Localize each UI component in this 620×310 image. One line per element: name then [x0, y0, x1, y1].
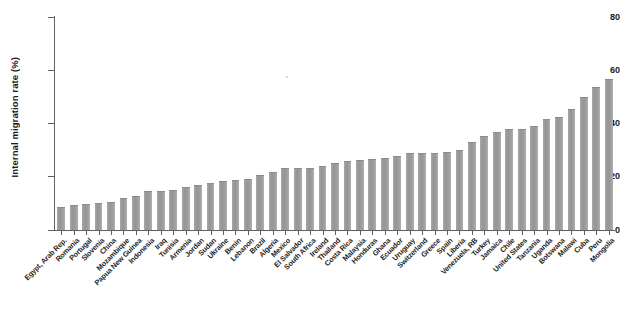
x-axis-tick [422, 231, 423, 235]
bar [530, 126, 538, 230]
x-axis-tick [310, 231, 311, 235]
bar [381, 158, 389, 230]
bar [518, 129, 526, 230]
bar [132, 196, 140, 230]
x-axis-tick [99, 231, 100, 235]
x-axis-tick [186, 231, 187, 235]
bar [493, 132, 501, 230]
bar [319, 166, 327, 230]
x-axis-tick [596, 231, 597, 235]
bar [294, 168, 302, 230]
bar [95, 203, 103, 230]
y-axis-title-label: Internal migration rate (%) [9, 57, 20, 177]
y-axis-title: Internal migration rate (%) [2, 0, 26, 235]
y-axis-tick [48, 17, 54, 18]
x-axis-tick [273, 231, 274, 235]
x-axis-tick [173, 231, 174, 235]
bar [269, 172, 277, 230]
x-axis-tick [472, 231, 473, 235]
bar [456, 150, 464, 230]
bar [157, 191, 165, 230]
x-axis-tick [198, 231, 199, 235]
y-axis-tick [48, 123, 54, 124]
bar [331, 163, 339, 230]
x-axis-tick [123, 231, 124, 235]
x-axis-tick [61, 231, 62, 235]
bar [431, 153, 439, 230]
bar [244, 179, 252, 230]
x-axis-tick [497, 231, 498, 235]
bar [356, 160, 364, 230]
x-axis-tick [447, 231, 448, 235]
x-axis-tick [260, 231, 261, 235]
bar [555, 117, 563, 230]
x-axis-tick [248, 231, 249, 235]
bar [120, 198, 128, 230]
bar [194, 185, 202, 230]
x-axis-tick [571, 231, 572, 235]
bar [344, 161, 352, 230]
x-axis-tick [559, 231, 560, 235]
bar [568, 109, 576, 230]
bar [57, 207, 65, 230]
x-axis-tick [360, 231, 361, 235]
x-axis-tick [435, 231, 436, 235]
bar [443, 152, 451, 230]
x-axis-tick [534, 231, 535, 235]
bar [605, 79, 613, 230]
x-axis-tick [148, 231, 149, 235]
x-axis-tick [86, 231, 87, 235]
bar [368, 159, 376, 230]
x-axis-tick [161, 231, 162, 235]
x-axis-tick [235, 231, 236, 235]
y-axis-tick [48, 176, 54, 177]
bar [169, 190, 177, 230]
bar [418, 153, 426, 230]
bar [505, 129, 513, 230]
x-axis-tick [285, 231, 286, 235]
bar [182, 187, 190, 230]
x-axis-tick [74, 231, 75, 235]
x-axis-tick [347, 231, 348, 235]
stray-speck [286, 76, 288, 78]
bar [406, 153, 414, 230]
x-axis-tick [459, 231, 460, 235]
bar-chart: Internal migration rate (%) 020406080 Eg… [0, 0, 620, 310]
x-axis-tick [397, 231, 398, 235]
x-axis-tick [509, 231, 510, 235]
bar [232, 180, 240, 230]
x-axis-tick [547, 231, 548, 235]
bar [592, 87, 600, 230]
x-axis-tick [323, 231, 324, 235]
x-axis-tick [136, 231, 137, 235]
bar [82, 204, 90, 230]
bar [306, 168, 314, 231]
bar [543, 119, 551, 230]
bar [207, 183, 215, 230]
bar [144, 191, 152, 230]
y-axis-tick [48, 70, 54, 71]
x-axis-tick [298, 231, 299, 235]
x-axis-tick [211, 231, 212, 235]
bar [468, 142, 476, 230]
y-axis-tick [48, 230, 54, 231]
bar [219, 181, 227, 230]
x-axis-tick [609, 231, 610, 235]
bar [107, 202, 115, 230]
bar [256, 175, 264, 230]
x-axis-tick [372, 231, 373, 235]
x-axis-tick [385, 231, 386, 235]
plot-area [55, 17, 615, 230]
bar [70, 205, 78, 230]
bar [480, 136, 488, 230]
x-axis-tick [335, 231, 336, 235]
bar [580, 97, 588, 230]
bar [281, 168, 289, 230]
bar [393, 156, 401, 230]
